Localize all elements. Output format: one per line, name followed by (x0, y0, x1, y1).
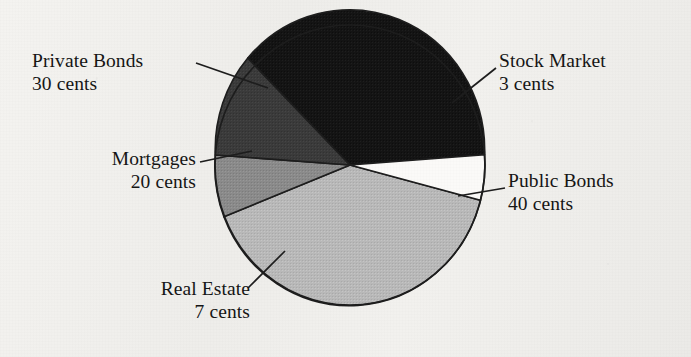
label-private-bonds-name: Private Bonds (32, 50, 143, 73)
pie-chart-figure: Private Bonds 30 cents Mortgages 20 cent… (0, 0, 691, 357)
label-stock-market-name: Stock Market (499, 50, 606, 73)
label-stock-market-value: 3 cents (499, 73, 606, 96)
label-mortgages-value: 20 cents (36, 171, 196, 194)
label-public-bonds-name: Public Bonds (508, 170, 614, 193)
label-mortgages-name: Mortgages (36, 148, 196, 171)
label-public-bonds-value: 40 cents (508, 193, 614, 216)
label-stock-market: Stock Market 3 cents (499, 50, 606, 95)
label-public-bonds: Public Bonds 40 cents (508, 170, 614, 215)
label-real-estate-value: 7 cents (98, 301, 250, 324)
label-real-estate: Real Estate 7 cents (98, 278, 250, 323)
label-private-bonds: Private Bonds 30 cents (32, 50, 143, 95)
label-real-estate-name: Real Estate (98, 278, 250, 301)
label-private-bonds-value: 30 cents (32, 73, 143, 96)
label-mortgages: Mortgages 20 cents (36, 148, 196, 193)
